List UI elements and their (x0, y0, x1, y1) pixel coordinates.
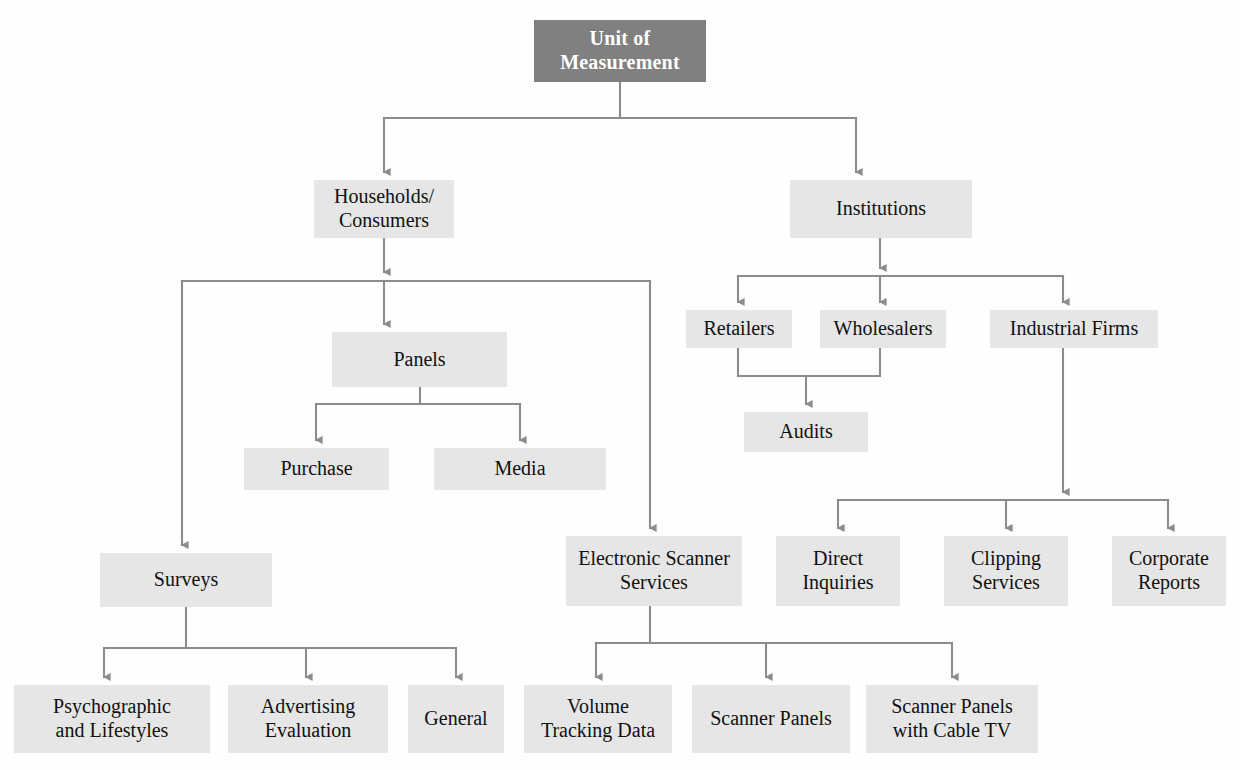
node-wholesalers[interactable]: Wholesalers (820, 310, 946, 348)
node-scanner-panels[interactable]: Scanner Panels (692, 685, 850, 753)
connector-lines (0, 0, 1240, 770)
node-electronic-scanner-services[interactable]: Electronic Scanner Services (566, 536, 742, 606)
node-psychographic-and-lifestyles[interactable]: Psychographic and Lifestyles (14, 685, 210, 753)
node-institutions[interactable]: Institutions (790, 180, 972, 238)
node-volume-tracking-data[interactable]: Volume Tracking Data (524, 685, 672, 753)
node-purchase[interactable]: Purchase (244, 448, 389, 490)
node-industrial-firms[interactable]: Industrial Firms (990, 310, 1158, 348)
node-scanner-panels-cable-tv[interactable]: Scanner Panels with Cable TV (866, 685, 1038, 753)
node-media[interactable]: Media (434, 448, 606, 490)
node-households-consumers[interactable]: Households/ Consumers (314, 180, 454, 238)
node-general[interactable]: General (408, 685, 504, 753)
node-surveys[interactable]: Surveys (100, 553, 272, 607)
node-direct-inquiries[interactable]: Direct Inquiries (776, 536, 900, 606)
node-audits[interactable]: Audits (744, 412, 868, 452)
page-background (0, 0, 1240, 770)
node-unit-of-measurement[interactable]: Unit of Measurement (534, 20, 706, 82)
node-panels[interactable]: Panels (332, 332, 507, 387)
node-retailers[interactable]: Retailers (686, 310, 792, 348)
node-corporate-reports[interactable]: Corporate Reports (1112, 536, 1226, 606)
node-clipping-services[interactable]: Clipping Services (944, 536, 1068, 606)
node-advertising-evaluation[interactable]: Advertising Evaluation (228, 685, 388, 753)
diagram-canvas: Unit of Measurement Households/ Consumer… (0, 0, 1240, 770)
